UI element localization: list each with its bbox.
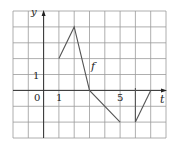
origin-label: 0 [34, 92, 40, 103]
x-axis-label: t [160, 93, 165, 106]
x-tick-label-5: 5 [117, 92, 123, 103]
y-tick-label-1: 1 [33, 70, 39, 81]
x-tick-label-1: 1 [56, 92, 62, 103]
graph: y t f 1 0 1 5 [0, 0, 174, 147]
curve-label: f [90, 60, 97, 73]
y-axis-label: y [30, 6, 37, 17]
